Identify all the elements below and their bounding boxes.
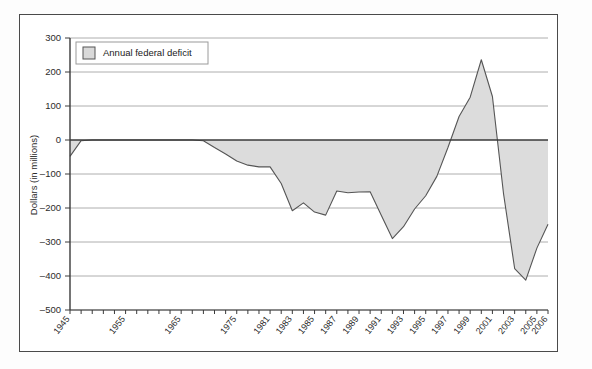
y-tick-label: 200 xyxy=(45,66,61,77)
legend-label: Annual federal deficit xyxy=(103,47,192,58)
y-tick-label: –400 xyxy=(40,270,61,281)
x-tick-label: 1955 xyxy=(107,314,127,336)
y-tick-label: 100 xyxy=(45,100,61,111)
x-tick-label: 1945 xyxy=(51,314,71,336)
x-tick-label: 1991 xyxy=(363,314,383,336)
x-tick-label: 1985 xyxy=(296,314,316,336)
x-tick-label: 1975 xyxy=(218,314,238,336)
x-tick-label: 1981 xyxy=(251,314,271,336)
y-tick-label: –200 xyxy=(40,202,61,213)
chart-legend: Annual federal deficit xyxy=(76,42,208,64)
y-tick-label: –100 xyxy=(40,168,61,179)
x-tick-label: 1997 xyxy=(429,314,449,336)
y-axis-tick-labels-group: 3002001000–100–200–300–400–500 xyxy=(40,32,70,315)
y-tick-label: –300 xyxy=(40,236,61,247)
area-chart-svg: 3002001000–100–200–300–400–500 194519551… xyxy=(0,0,592,369)
series-area-annual-federal-deficit xyxy=(70,60,548,280)
x-tick-label: 2003 xyxy=(496,314,516,336)
y-tick-label: 300 xyxy=(45,32,61,43)
x-tick-label: 1989 xyxy=(340,314,360,336)
x-tick-label: 1993 xyxy=(385,314,405,336)
y-tick-label: 0 xyxy=(56,134,61,145)
x-axis-tick-labels-group: 1945195519651975198119831985198719891991… xyxy=(51,314,549,336)
x-tick-label: 1987 xyxy=(318,314,338,336)
x-tick-label: 1995 xyxy=(407,314,427,336)
x-tick-label: 2001 xyxy=(474,314,494,336)
y-tick-label: –500 xyxy=(40,304,61,315)
x-tick-label: 1999 xyxy=(452,314,472,336)
figure-container: 3002001000–100–200–300–400–500 194519551… xyxy=(0,0,592,369)
legend-swatch-icon xyxy=(83,47,95,59)
x-tick-label: 1965 xyxy=(163,314,183,336)
chart-plot-area: 3002001000–100–200–300–400–500 194519551… xyxy=(0,0,592,369)
x-tick-label: 1983 xyxy=(274,314,294,336)
area-fill xyxy=(70,60,548,280)
y-axis-title: Dollars (in millions) xyxy=(28,135,39,215)
